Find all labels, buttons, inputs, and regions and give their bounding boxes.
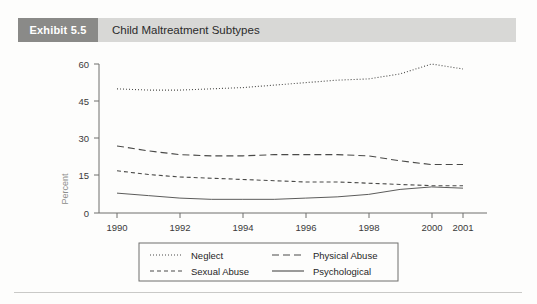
x-tick-label: 1990 [106,222,127,233]
y-tick-label: 15 [78,170,89,181]
legend-label-physical-abuse: Physical Abuse [313,250,377,261]
x-tick-label: 2000 [421,222,442,233]
x-tick-label: 1992 [169,222,190,233]
y-tick-label: 30 [78,133,89,144]
exhibit-page: Exhibit 5.5 Child Maltreatment Subtypes … [0,0,537,304]
x-tick-label: 1994 [232,222,253,233]
x-tick-label: 1998 [358,222,379,233]
chart-container: Percent 60 45 30 15 0 [0,44,537,284]
series-line-physical-abuse [117,146,463,165]
y-tick-label: 0 [84,208,89,219]
legend-label-psychological: Psychological [313,266,371,277]
series-line-neglect [117,64,463,90]
page-bottom-rule [14,292,522,293]
y-axis-title: Percent [60,173,70,205]
y-axis-ticks: 60 45 30 15 0 [78,59,99,219]
x-axis-ticks: 1990 1992 1994 1996 1998 2000 2001 [106,213,473,233]
legend-label-sexual-abuse: Sexual Abuse [191,266,249,277]
y-tick-label: 45 [78,96,89,107]
x-tick-label: 2001 [452,222,473,233]
series-line-sexual-abuse [117,171,463,186]
exhibit-badge: Exhibit 5.5 [18,18,98,42]
chart-legend: Neglect Physical Abuse Sexual Abuse Psyc… [139,243,398,281]
exhibit-title: Child Maltreatment Subtypes [98,18,516,42]
x-tick-label: 1996 [295,222,316,233]
legend-label-neglect: Neglect [191,250,224,261]
y-tick-label: 60 [78,59,89,70]
exhibit-header-bar: Exhibit 5.5 Child Maltreatment Subtypes [18,18,516,42]
series-layer [117,64,463,199]
line-chart: Percent 60 45 30 15 0 [0,44,537,284]
series-line-psychological [117,187,463,199]
